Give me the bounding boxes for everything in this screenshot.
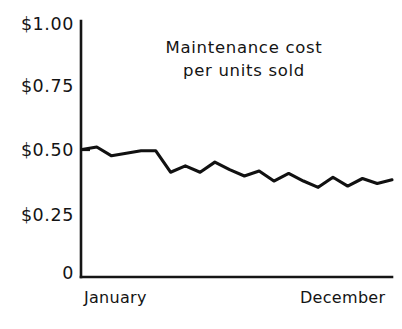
y-axis-label-0: 0 <box>62 263 74 283</box>
chart-title-line-2: per units sold <box>183 61 305 80</box>
y-axis-label-1-00: $1.00 <box>21 14 74 34</box>
line-chart: $1.00 $0.75 $0.50 $0.25 0 January Decemb… <box>0 0 402 329</box>
x-axis-label-december: December <box>300 288 385 307</box>
data-series-line <box>82 147 392 187</box>
y-axis-label-0-50: $0.50 <box>21 140 74 160</box>
y-axis-label-0-25: $0.25 <box>21 205 74 225</box>
chart-canvas: $1.00 $0.75 $0.50 $0.25 0 January Decemb… <box>0 0 402 329</box>
chart-title-line-1: Maintenance cost <box>166 38 323 57</box>
y-axis-label-0-75: $0.75 <box>21 76 74 96</box>
x-axis-label-january: January <box>83 288 147 307</box>
